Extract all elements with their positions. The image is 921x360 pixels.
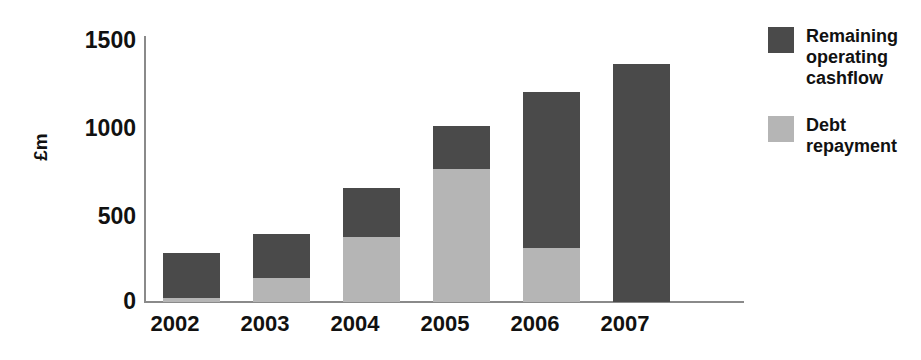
x-tick-label-2007: 2007 [580, 313, 670, 335]
bar-2007[interactable] [613, 64, 670, 302]
y-tick-label-500: 500 [52, 205, 136, 228]
plot-area [146, 36, 746, 302]
bar-segment-debt-repayment [343, 237, 400, 302]
bar-2005[interactable] [433, 126, 490, 302]
legend-swatch-remaining-operating-cashflow [768, 27, 794, 53]
bar-segment-remaining-operating-cashflow [613, 64, 670, 302]
chart-legend: Remaining operating cashflow Debt repaym… [768, 26, 918, 182]
y-tick-label-1500: 1500 [52, 29, 136, 52]
y-axis-tick-labels: 1500 1000 500 0 [52, 0, 136, 360]
bar-segment-debt-repayment [253, 278, 310, 302]
y-tick-label-1000: 1000 [52, 117, 136, 140]
x-tick-label-2006: 2006 [490, 313, 580, 335]
bar-segment-remaining-operating-cashflow [163, 253, 220, 298]
bar-2006[interactable] [523, 92, 580, 302]
bar-segment-debt-repayment [433, 169, 490, 302]
bar-2004[interactable] [343, 188, 400, 302]
legend-label-debt-repayment: Debt repayment [806, 115, 914, 157]
x-tick-label-2004: 2004 [310, 313, 400, 335]
bar-segment-remaining-operating-cashflow [433, 126, 490, 169]
y-tick-label-0: 0 [52, 290, 136, 313]
legend-entry-debt-repayment[interactable]: Debt repayment [768, 115, 918, 157]
x-tick-label-2005: 2005 [400, 313, 490, 335]
bar-2003[interactable] [253, 234, 310, 302]
bar-segment-remaining-operating-cashflow [523, 92, 580, 248]
stacked-bar-chart: £m 1500 1000 500 0 [0, 0, 921, 360]
legend-label-remaining-operating-cashflow: Remaining operating cashflow [806, 26, 914, 89]
x-tick-label-2002: 2002 [130, 313, 220, 335]
x-tick-label-2003: 2003 [220, 313, 310, 335]
bar-segment-debt-repayment [163, 298, 220, 302]
bar-segment-remaining-operating-cashflow [253, 234, 310, 278]
legend-entry-remaining-operating-cashflow[interactable]: Remaining operating cashflow [768, 26, 918, 89]
bar-segment-remaining-operating-cashflow [343, 188, 400, 237]
bar-2002[interactable] [163, 253, 220, 302]
bar-segment-debt-repayment [523, 248, 580, 302]
y-axis-title: £m [30, 130, 52, 164]
legend-swatch-debt-repayment [768, 116, 794, 142]
